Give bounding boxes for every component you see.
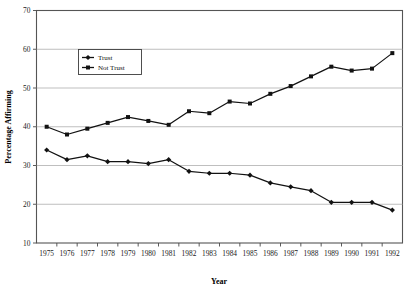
y-tick-label: 60 — [23, 45, 31, 54]
data-point-marker-square — [329, 65, 333, 69]
data-point-marker-square — [167, 123, 171, 127]
x-tick-label: 1978 — [100, 249, 115, 258]
x-tick-label: 1987 — [283, 249, 298, 258]
data-point-marker-square — [85, 127, 89, 131]
y-tick-label: 30 — [23, 161, 31, 170]
x-tick-label: 1975 — [39, 249, 54, 258]
legend-label-trust: Trust — [98, 54, 113, 62]
data-point-marker-square — [350, 69, 354, 73]
data-point-marker-square — [309, 74, 313, 78]
data-point-marker-square — [146, 119, 150, 123]
data-point-marker-square — [370, 67, 374, 71]
x-tick-label: 1992 — [385, 249, 400, 258]
x-tick-label: 1983 — [202, 249, 217, 258]
data-point-marker-square — [187, 109, 191, 113]
x-tick-label: 1988 — [304, 249, 319, 258]
y-tick-label: 70 — [23, 6, 31, 15]
y-tick-label: 50 — [23, 84, 31, 93]
x-tick-label: 1986 — [263, 249, 278, 258]
chart-container: 10203040506070 1975197619771978197919801… — [0, 0, 419, 291]
chart-legend[interactable]: TrustNot Trust — [79, 50, 142, 75]
x-tick-label: 1982 — [182, 249, 197, 258]
x-tick-label: 1989 — [324, 249, 339, 258]
legend-label-not-trust: Not Trust — [98, 64, 125, 72]
x-tick-label: 1990 — [344, 249, 359, 258]
x-tick-label: 1981 — [161, 249, 176, 258]
data-point-marker-square — [45, 125, 49, 129]
data-point-marker-square — [289, 84, 293, 88]
y-tick-label: 10 — [23, 239, 31, 248]
data-point-marker-square — [106, 121, 110, 125]
data-point-marker-square — [390, 51, 394, 55]
line-chart: 10203040506070 1975197619771978197919801… — [0, 0, 419, 291]
x-tick-label: 1980 — [141, 249, 156, 258]
y-tick-label: 40 — [23, 122, 31, 131]
data-point-marker-square — [86, 66, 90, 70]
y-axis-title: Percentage Affirming — [4, 90, 13, 163]
x-tick-label: 1979 — [121, 249, 136, 258]
data-point-marker-square — [248, 102, 252, 106]
data-point-marker-square — [207, 111, 211, 115]
x-tick-label: 1991 — [365, 249, 380, 258]
x-tick-label: 1985 — [243, 249, 258, 258]
x-tick-label: 1976 — [60, 249, 75, 258]
data-point-marker-square — [228, 100, 232, 104]
y-tick-label: 20 — [23, 200, 31, 209]
x-tick-label: 1977 — [80, 249, 95, 258]
x-axis-title: Year — [211, 277, 227, 286]
data-point-marker-square — [126, 115, 130, 119]
x-tick-label: 1984 — [222, 249, 237, 258]
data-point-marker-square — [65, 133, 69, 137]
data-point-marker-square — [268, 92, 272, 96]
